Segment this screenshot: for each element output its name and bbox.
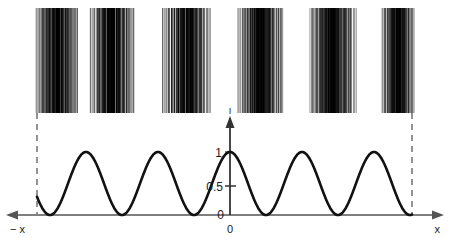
x-axis-left-label: − x <box>10 223 25 235</box>
fringe-band <box>90 8 134 113</box>
y-tick-label-0-5: 0.5 <box>206 180 223 194</box>
origin-label: 0 <box>227 223 233 235</box>
fringe-band-group <box>36 8 414 113</box>
fringe-band <box>382 8 414 113</box>
intensity-curve <box>37 152 412 215</box>
y-axis-arrowhead <box>226 116 235 128</box>
x-axis-right-arrowhead <box>432 211 444 220</box>
dashed-dropline-group <box>37 113 412 214</box>
x-axis-left-arrowhead <box>6 211 18 220</box>
fringe-band <box>36 8 77 113</box>
fringe-band <box>310 8 356 113</box>
interference-fringe-figure: 1 0.5 0 I 0 − x x <box>0 0 450 238</box>
y-tick-label-0: 0 <box>217 208 224 222</box>
fringe-band <box>163 8 211 113</box>
y-tick-label-1: 1 <box>215 146 222 160</box>
x-axis <box>6 211 444 220</box>
x-axis-right-label: x <box>435 223 441 235</box>
fringe-band <box>238 8 283 113</box>
y-axis <box>225 116 236 215</box>
y-axis-symbol-label: I <box>229 106 232 116</box>
figure-canvas: 1 0.5 0 I 0 − x x <box>0 0 450 238</box>
